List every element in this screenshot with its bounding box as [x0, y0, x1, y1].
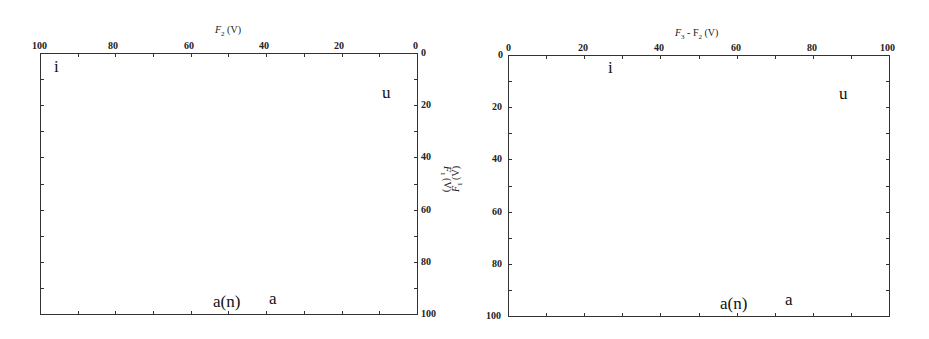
right-xtick-60: 60	[731, 42, 741, 53]
right-xtick-100: 100	[880, 42, 895, 53]
right-vowel-u: u	[839, 85, 848, 102]
right-ytick-60: 60	[492, 206, 502, 217]
right-x-axis-title: F3 - F2 (V)	[675, 27, 718, 41]
right-vowel-i: i	[608, 59, 613, 76]
left-vowel-u: u	[382, 84, 391, 101]
right-ytick-40: 40	[492, 153, 502, 164]
right-xtick-80: 80	[807, 42, 817, 53]
left-ytick-100: 100	[421, 308, 436, 319]
left-ytick-40: 40	[421, 151, 431, 162]
left-plot-area	[40, 53, 418, 315]
left-ytick-0: 0	[421, 47, 426, 58]
left-xtick-40: 40	[259, 40, 269, 51]
right-xtick-0: 0	[506, 42, 511, 53]
right-ytick-100: 100	[486, 310, 501, 321]
right-xtick-40: 40	[654, 42, 664, 53]
left-vowel-a: a	[269, 290, 277, 307]
left-ytick-80: 80	[421, 256, 431, 267]
left-xtick-0: 0	[413, 40, 418, 51]
right-y-axis-title: F1 (V)	[450, 166, 464, 192]
left-x-axis-title: F2 (V)	[215, 24, 241, 38]
left-xtick-100: 100	[32, 40, 47, 51]
right-ytick-80: 80	[492, 258, 502, 269]
left-vowel-i: i	[54, 58, 59, 75]
right-plot-area	[508, 55, 890, 317]
right-ytick-20: 20	[492, 101, 502, 112]
left-vowel-an: a(n)	[213, 293, 240, 310]
left-xtick-80: 80	[108, 40, 118, 51]
right-xtick-20: 20	[578, 42, 588, 53]
right-ytick-0: 0	[498, 49, 503, 60]
left-xtick-20: 20	[334, 40, 344, 51]
right-vowel-an: a(n)	[720, 295, 747, 312]
left-ytick-60: 60	[421, 204, 431, 215]
left-xtick-60: 60	[184, 40, 194, 51]
right-vowel-a: a	[785, 291, 793, 308]
left-ytick-20: 20	[421, 99, 431, 110]
